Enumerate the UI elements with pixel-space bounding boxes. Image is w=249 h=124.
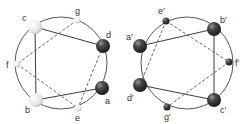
node-b [29,93,43,107]
label-a: a [105,96,110,106]
edge-a-b-prime [140,29,214,46]
node-e [75,105,82,112]
edge-g-f [17,20,77,64]
left-diagram: c g d a e b f [6,6,111,123]
label-b-prime: b′ [220,15,227,25]
right-diagram: e′ b′ a′ f′ d′ g′ c′ [126,6,240,122]
label-c: c [22,13,27,23]
node-d-prime [133,78,147,92]
label-d-prime: d′ [127,93,134,103]
node-d [96,39,110,53]
node-c-prime [207,93,221,107]
node-a [95,81,109,95]
node-e-prime [163,18,170,25]
edge-c-b [35,27,36,100]
label-a-prime: a′ [126,32,133,42]
label-e-prime: e′ [158,6,165,16]
node-g [74,17,81,24]
node-a-prime [133,39,147,53]
node-g-prime [164,104,171,111]
label-c-prime: c′ [220,105,227,115]
node-b-prime [207,22,221,36]
label-f: f [6,60,9,70]
diagram-canvas: c g d a e b f e′ b′ a′ f′ d′ g′ c′ [0,0,249,124]
label-g: g [75,6,80,16]
label-e: e [75,113,80,123]
edge-f-e [17,64,78,108]
label-b: b [25,105,30,115]
label-d: d [106,30,111,40]
edge-b-a [36,88,102,100]
node-f [14,61,21,68]
edge-e-d-prime [140,21,166,85]
node-f-prime [226,59,233,66]
node-c [28,20,42,34]
label-f-prime: f′ [235,58,240,68]
label-g-prime: g′ [164,112,171,122]
